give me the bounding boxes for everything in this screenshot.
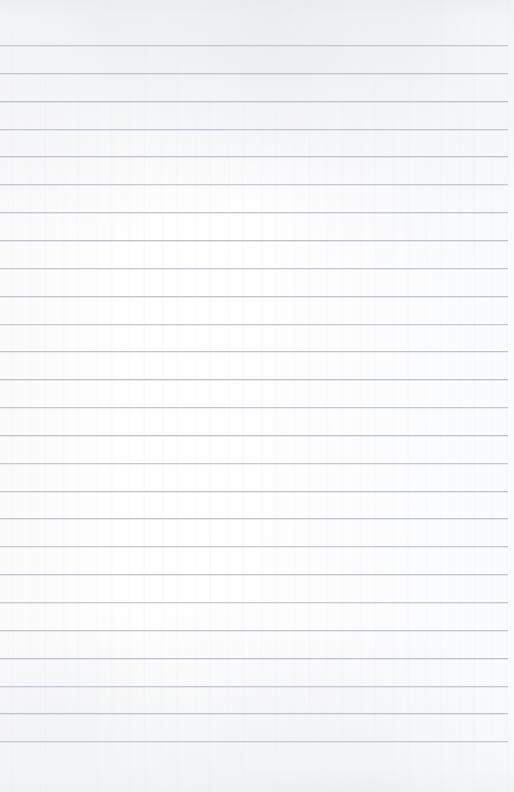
writing-area[interactable]	[0, 45, 514, 742]
paper-top-edge-shading	[0, 0, 514, 46]
notebook-page	[0, 0, 514, 792]
paper-bottom-edge-shading	[0, 736, 514, 792]
